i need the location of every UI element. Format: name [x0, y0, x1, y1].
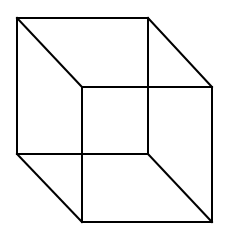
cube-edge-back-bottom-left-to-front-bottom-left: [17, 154, 82, 222]
cube-edge-back-top-right-to-front-top-right: [148, 18, 212, 87]
necker-cube-diagram: [0, 0, 231, 242]
cube-edge-back-bottom-right-to-front-bottom-right: [148, 154, 212, 222]
cube-wireframe: [0, 0, 231, 242]
cube-edge-back-top-left-to-front-top-left: [17, 18, 82, 87]
